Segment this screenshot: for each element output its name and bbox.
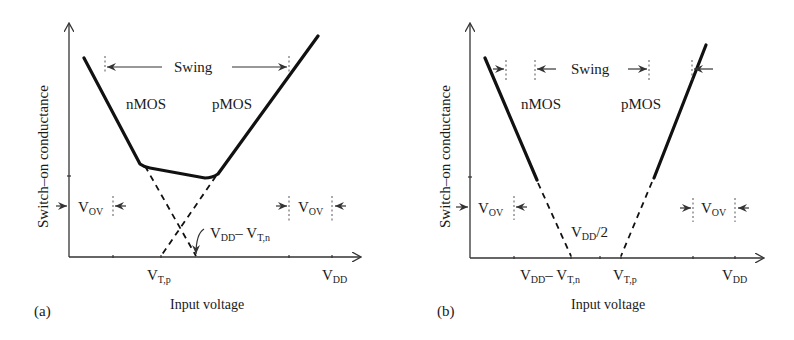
tick-label-vdd: VDD bbox=[722, 267, 747, 285]
pmos-curve bbox=[654, 45, 706, 178]
vov-left-label: VOV bbox=[478, 200, 504, 218]
vov-left-label: VOV bbox=[78, 199, 104, 217]
vov-right-label: VOV bbox=[298, 199, 324, 217]
x-axis-label: Input voltage bbox=[170, 297, 244, 312]
nmos-extrapolation bbox=[538, 183, 571, 256]
panel-a: Switch–on conductance Swing nMOS pMOS VO… bbox=[34, 24, 360, 320]
cmos-transmission-gate-conductance-figure: Switch–on conductance Swing nMOS pMOS VO… bbox=[0, 0, 794, 340]
tick-label-vdd: VDD bbox=[322, 267, 347, 285]
x-axis-label: Input voltage bbox=[571, 297, 645, 312]
y-axis-label: Switch–on conductance bbox=[437, 85, 453, 228]
vdd-minus-vtn-annotation: VDD– VT,n bbox=[210, 225, 270, 243]
swing-label: Swing bbox=[174, 59, 213, 75]
nmos-label: nMOS bbox=[521, 96, 561, 112]
annotation-arrow bbox=[196, 229, 204, 254]
vdd-half-annotation: VDD/2 bbox=[571, 224, 608, 242]
vov-right-label: VOV bbox=[701, 200, 727, 218]
tick-label-vtp: VT,p bbox=[147, 267, 171, 285]
nmos-curve bbox=[485, 58, 537, 180]
pmos-label: pMOS bbox=[212, 96, 252, 112]
panel-tag-a: (a) bbox=[34, 303, 51, 320]
x-ticks bbox=[468, 177, 735, 259]
y-axis-label: Switch–on conductance bbox=[35, 85, 51, 228]
nmos-label: nMOS bbox=[126, 96, 166, 112]
x-ticks bbox=[67, 176, 332, 258]
pmos-label: pMOS bbox=[621, 96, 661, 112]
panel-tag-b: (b) bbox=[437, 303, 455, 320]
conductance-curve bbox=[84, 36, 318, 178]
panel-b: Switch–on conductance Swing nMOS pMOS VO… bbox=[437, 24, 763, 320]
pmos-extrapolation bbox=[621, 182, 652, 256]
tick-label-vtp: VT,p bbox=[613, 267, 637, 285]
swing-label: Swing bbox=[571, 61, 610, 77]
tick-label-vdd-minus-vtn: VDD– VT,n bbox=[520, 267, 580, 285]
